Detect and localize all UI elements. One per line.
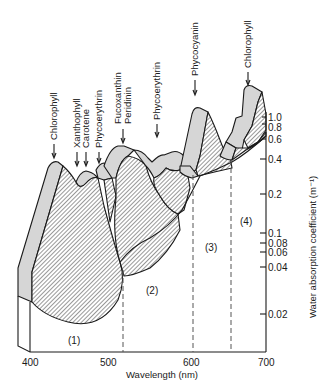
- pigment-label-phycocyanin: Phycocyanin: [189, 22, 200, 95]
- y-tick-0.2: 0.2: [268, 189, 282, 200]
- region-label-1: (1): [68, 335, 80, 346]
- x-axis-label: Wavelength (nm): [126, 369, 198, 380]
- pigment-label-peridinin: Peridinin: [121, 87, 133, 143]
- pigment-label-carotene: Carotene: [80, 109, 91, 166]
- svg-text:Carotene: Carotene: [80, 109, 91, 148]
- pigment-label-phycoerythrin-2: Phycoerythrin: [151, 62, 162, 137]
- x-tick-600: 600: [183, 357, 200, 368]
- svg-text:Phycoerythrin: Phycoerythrin: [151, 62, 162, 120]
- svg-text:Phycoerythrin: Phycoerythrin: [93, 90, 104, 148]
- region-3-phycocyanin-peak: [180, 108, 232, 178]
- pigment-label-chlorophyll-blue: Chlorophyll: [48, 92, 59, 158]
- y-tick-0.04: 0.04: [268, 262, 288, 273]
- svg-text:Chlorophyll: Chlorophyll: [242, 20, 253, 68]
- y-tick-0.02: 0.02: [268, 309, 288, 320]
- x-tick-500: 500: [100, 357, 117, 368]
- pigment-label-phycoerythrin-1: Phycoerythrin: [93, 90, 104, 163]
- region-4-chlorophyll-peak: [220, 86, 266, 161]
- region-label-3: (3): [205, 242, 217, 253]
- svg-text:Chlorophyll: Chlorophyll: [48, 92, 59, 140]
- x-tick-400: 400: [22, 357, 39, 368]
- y-tick-0.06: 0.06: [268, 247, 288, 258]
- x-tick-700: 700: [258, 357, 275, 368]
- y-tick-0.6: 0.6: [268, 134, 282, 145]
- region-label-4: (4): [240, 216, 252, 227]
- svg-text:Phycocyanin: Phycocyanin: [189, 22, 200, 76]
- region-label-2: (2): [146, 285, 158, 296]
- pigment-absorption-diagram: 400 500 600 700 Wavelength (nm) 1.0 0.8 …: [0, 0, 328, 391]
- svg-text:Peridinin: Peridinin: [122, 87, 133, 124]
- y-axis: [260, 117, 266, 314]
- y-axis-label: Water absorption coefficient (m⁻¹): [307, 176, 318, 318]
- y-tick-0.8: 0.8: [268, 122, 282, 133]
- y-tick-0.4: 0.4: [268, 154, 282, 165]
- region-1-absorption-body: [18, 162, 123, 324]
- pigment-label-chlorophyll-red: Chlorophyll: [242, 20, 253, 85]
